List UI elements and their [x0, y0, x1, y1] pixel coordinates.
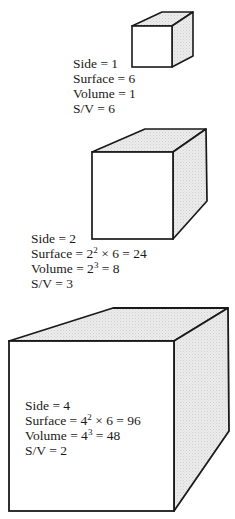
- cube-side-1: [132, 12, 193, 67]
- cube-4-side: Side = 4: [25, 398, 141, 413]
- cube-4-volume: Volume = 43 = 48: [25, 428, 141, 443]
- cube-4-surface-base: Surface = 4: [25, 413, 87, 428]
- cube-1-side: Side = 1: [73, 56, 136, 71]
- cube-4-volume-rest: = 48: [92, 428, 120, 443]
- cube-4-sv: S/V = 2: [25, 443, 141, 458]
- cube-4-surface-rest: × 6 = 96: [92, 413, 141, 428]
- cube-1-surface: Surface = 6: [73, 71, 136, 86]
- cube-2-volume: Volume = 23 = 8: [31, 261, 147, 276]
- cube-2-sv: S/V = 3: [31, 276, 147, 291]
- cube-2-side: Side = 2: [31, 231, 147, 246]
- cube-4-surface: Surface = 42 × 6 = 96: [25, 413, 141, 428]
- cube-4-labels: Side = 4 Surface = 42 × 6 = 96 Volume = …: [25, 398, 141, 458]
- cube-2-surface: Surface = 22 × 6 = 24: [31, 246, 147, 261]
- cube-1-volume: Volume = 1: [73, 86, 136, 101]
- cube-2-surface-base: Surface = 2: [31, 246, 93, 261]
- cube-4-volume-base: Volume = 4: [25, 428, 88, 443]
- cube-2-volume-base: Volume = 2: [31, 261, 94, 276]
- cube-1-labels: Side = 1 Surface = 6 Volume = 1 S/V = 6: [73, 56, 136, 116]
- cube-2-labels: Side = 2 Surface = 22 × 6 = 24 Volume = …: [31, 231, 147, 291]
- cube-side-2: [92, 129, 207, 239]
- cube-1-sv: S/V = 6: [73, 101, 136, 116]
- cube-2-volume-rest: = 8: [98, 261, 119, 276]
- cube-2-surface-rest: × 6 = 24: [98, 246, 147, 261]
